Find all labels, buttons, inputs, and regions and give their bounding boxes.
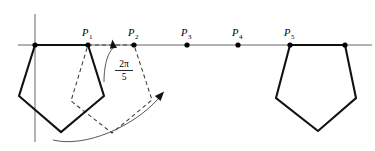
pentagon-rotated — [71, 45, 152, 133]
point-marker-p5 — [287, 42, 292, 47]
vertex-dot-origin-vertex — [32, 42, 37, 47]
point-label-subscript: 4 — [239, 33, 243, 41]
rotation-arc-upper — [104, 48, 113, 82]
point-label-p1: P1 — [81, 27, 93, 41]
angle-label-group: 2π 5 — [115, 59, 133, 82]
point-label-p3: P3 — [180, 27, 192, 41]
diagram-canvas: 2π 5 P1P2P3P4P5 — [0, 0, 375, 151]
point-label-subscript: 1 — [89, 33, 93, 41]
angle-denominator: 5 — [122, 72, 127, 82]
pentagon-start — [19, 45, 104, 132]
point-label-p5: P5 — [283, 27, 295, 41]
point-marker-p1 — [85, 42, 90, 47]
point-marker-p2 — [131, 42, 136, 47]
point-label-p4: P4 — [231, 27, 243, 41]
arrow-head-lower-icon — [155, 89, 167, 101]
pentagon-rolling-figure: 2π 5 P1P2P3P4P5 — [0, 0, 375, 151]
point-label-subscript: 3 — [188, 33, 192, 41]
rotation-arc-lower — [53, 99, 158, 142]
point-label-p2: P2 — [127, 27, 139, 41]
point-marker-p3 — [184, 42, 189, 47]
angle-numerator: 2π — [119, 59, 129, 69]
arrow-head-upper-icon — [109, 39, 117, 49]
point-label-subscript: 5 — [291, 33, 295, 41]
point-label-subscript: 2 — [135, 33, 139, 41]
point-marker-p4 — [235, 42, 240, 47]
vertex-dot-right-pentagon-top-right — [342, 42, 347, 47]
pentagon-end — [276, 45, 356, 131]
